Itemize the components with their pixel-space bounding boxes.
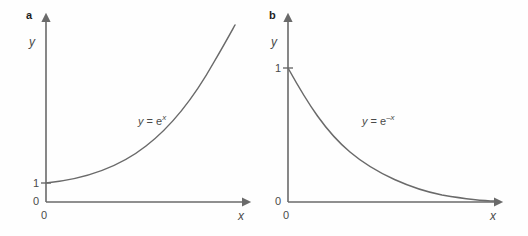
- panel-a-curve-label-exponent: x: [162, 113, 166, 122]
- panel-b-curve-label-exponent: –x: [386, 113, 394, 122]
- panel-b-curve: [288, 68, 495, 201]
- panel-a: a y x 1 0 0 y = ex: [0, 0, 264, 236]
- panel-a-y-axis-label: y: [29, 36, 35, 48]
- panel-b-x-axis-label: x: [490, 210, 496, 222]
- panel-b-curve-label-equals: = e: [368, 115, 387, 127]
- figure-container: a y x 1 0 0 y = ex: [0, 0, 528, 236]
- panel-a-letter: a: [26, 10, 32, 21]
- panel-b-origin-y-label: 0: [275, 196, 281, 207]
- panel-b-origin-x-label: 0: [283, 210, 289, 221]
- panel-b-plot: [264, 0, 528, 236]
- panel-a-ytick-label-1: 1: [33, 178, 39, 189]
- panel-b-curve-label: y = e–x: [362, 116, 395, 127]
- panel-b-letter: b: [269, 10, 276, 21]
- panel-b-ytick-label-1: 1: [275, 63, 281, 74]
- panel-a-x-axis-label: x: [238, 210, 244, 222]
- panel-a-curve-label: y = ex: [138, 116, 166, 127]
- panel-a-curve-label-equals: = e: [144, 115, 163, 127]
- panel-b-y-axis-label: y: [271, 36, 277, 48]
- panel-a-plot: [0, 0, 264, 236]
- panel-a-curve: [46, 25, 235, 183]
- panel-b: b y x 1 0 0 y = e–x: [264, 0, 528, 236]
- panel-a-origin-y-label: 0: [33, 196, 39, 207]
- panel-a-origin-x-label: 0: [41, 210, 47, 221]
